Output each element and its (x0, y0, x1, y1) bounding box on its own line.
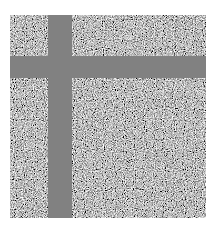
noise-texture (10, 15, 206, 218)
horizontal-gray-band (10, 56, 206, 78)
vertical-gray-band (48, 15, 72, 218)
image-caption (4, 0, 64, 6)
noise-image (10, 15, 206, 218)
